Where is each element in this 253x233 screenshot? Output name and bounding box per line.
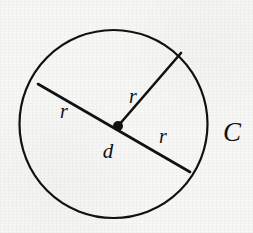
radius-label-lower-right: r [159,125,167,147]
center-dot [113,121,123,131]
circle-diagram-canvas: r r r d C [0,0,253,233]
diameter-label: d [103,139,114,163]
radius-line-upper-right [118,53,181,126]
radius-label-left: r [60,100,68,122]
circle-diagram-figure: r r r d C [0,0,253,233]
circumference-label: C [223,117,242,147]
radius-label-upper-right: r [129,85,137,107]
